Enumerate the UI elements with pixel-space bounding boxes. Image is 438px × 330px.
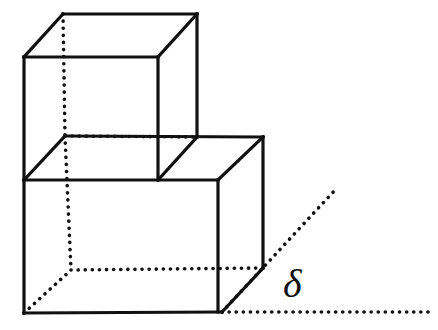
- mid-platform-back-edge: [65, 136, 263, 137]
- cube-diagram-svg: δ: [0, 0, 438, 330]
- delta-angle-label: δ: [283, 261, 303, 306]
- lower-bottom-front-edge: [24, 312, 222, 313]
- labels-group: δ: [283, 261, 303, 306]
- figure-canvas: δ: [0, 0, 438, 330]
